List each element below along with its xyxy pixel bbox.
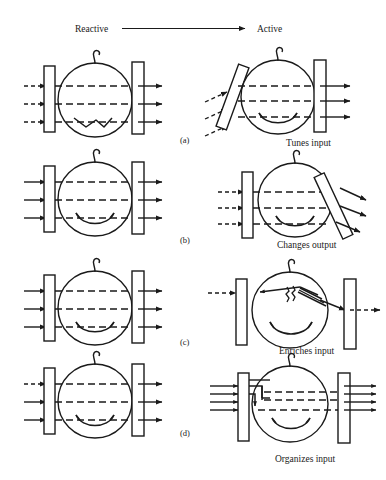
axis-left-label: Reactive [75,24,108,34]
right-barrier [132,162,144,234]
right-barrier [338,373,350,443]
reactive-baby-changes [24,150,162,236]
reactive-baby-organizes [24,352,162,438]
left-barrier [44,166,55,232]
caption-changes-output: Changes output [277,240,337,250]
row-label-b: (b) [180,235,190,245]
active-baby-organizes: Organizes input [210,354,376,464]
baby-head [58,259,132,345]
row-label-d: (d) [180,428,190,438]
input-arrows [210,386,238,410]
input-arrows [24,182,46,218]
input-arrows [24,291,46,327]
right-barrier [314,60,326,132]
figure-container: Reactive Active [0,0,386,480]
hair-curl-icon [293,151,299,164]
baby-head [241,48,315,134]
input-arrows [24,384,46,420]
baby-head [252,260,328,348]
input-arrows [218,192,244,224]
figure-svg: Reactive Active [0,0,386,480]
caption-enriches-input: Enriches input [279,346,335,356]
axis-right-label: Active [257,24,282,34]
hair-curl-icon [93,150,99,163]
axis-header: Reactive Active [75,24,282,34]
row-b: (b) [24,150,366,250]
input-arrows [24,86,46,122]
hair-curl-icon [93,259,99,272]
left-barrier [242,172,253,238]
left-barrier [44,275,55,341]
left-barrier [236,279,247,345]
baby-head [58,352,132,438]
left-barrier [44,66,55,132]
hair-curl-icon [276,48,282,61]
caption-organizes-input: Organizes input [275,454,336,464]
hair-curl-icon [93,51,99,64]
hair-curl-icon [288,260,294,273]
row-label-c: (c) [180,337,190,347]
left-barrier [238,373,249,441]
row-d: (d) [24,352,376,464]
left-barrier [44,368,55,434]
active-baby-changes: Changes output [218,151,366,250]
reactive-baby-tunes [24,51,162,137]
row-label-a: (a) [180,135,190,145]
right-barrier [132,62,144,134]
baby-head [58,150,132,236]
active-baby-tunes: Tunes input [205,48,350,148]
row-c: (c) [24,259,380,356]
hair-curl-icon [93,352,99,365]
row-a: (a) [24,48,350,148]
active-baby-enriches: Enriches input [208,260,380,356]
right-barrier [344,279,356,349]
caption-tunes-input: Tunes input [286,138,331,148]
right-barrier [132,364,144,436]
baby-head [58,51,132,137]
right-barrier [132,271,144,343]
reactive-baby-enriches [24,259,162,345]
